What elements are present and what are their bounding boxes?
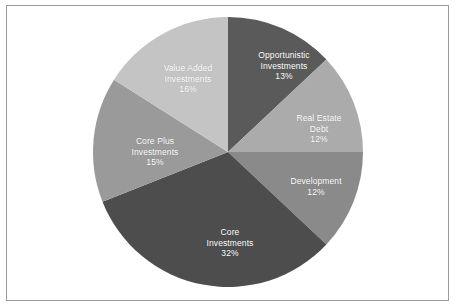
pie-slice-label: Value AddedInvestments16% [164,63,213,95]
pie-slice-value: 12% [296,134,341,145]
pie-chart: OpportunisticInvestments13%Real EstateDe… [7,6,450,302]
pie-slice-value: 12% [290,186,341,197]
pie-slice-label: OpportunisticInvestments13% [258,50,309,82]
pie-slice-label: CoreInvestments32% [207,227,254,259]
pie-slice-label-name-cont: Debt [296,124,341,135]
pie-slice-value: 13% [258,71,309,82]
pie-slice-value: 16% [164,84,213,95]
pie-slice-label-name: Opportunistic [258,50,309,61]
pie-slice-label-name: Core [207,227,254,238]
pie-slice-label-name-cont: Investments [207,238,254,249]
pie-slice-label-name-cont: Investments [132,147,179,158]
pie-slice-label-name: Value Added [164,63,213,74]
pie-slice-value: 32% [207,248,254,259]
pie-slice-value: 15% [132,157,179,168]
pie-slice-label: Development12% [290,176,341,197]
pie-slice-label-name: Real Estate [296,113,341,124]
pie-slice-label: Core PlusInvestments15% [132,136,179,168]
pie-slice-label-name: Development [290,176,341,187]
chart-frame: OpportunisticInvestments13%Real EstateDe… [6,5,449,301]
pie-slice-label-name-cont: Investments [164,74,213,85]
pie-slice-label: Real EstateDebt12% [296,113,341,145]
pie-slice-label-name-cont: Investments [258,61,309,72]
pie-slice-label-name: Core Plus [132,136,179,147]
